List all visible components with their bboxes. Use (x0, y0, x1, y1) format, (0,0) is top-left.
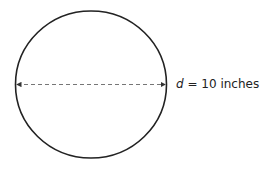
diameter-variable: d (176, 77, 184, 91)
equals-sign: = (184, 77, 202, 91)
diameter-value: 10 inches (201, 77, 259, 91)
diameter-label: d = 10 inches (176, 77, 259, 91)
